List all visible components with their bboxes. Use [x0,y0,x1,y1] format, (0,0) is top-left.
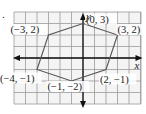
point-label: (3, 2) [118,24,141,36]
point-label: (−4, −1) [0,73,35,85]
point-label: (−1, −2) [48,81,83,93]
point-label: (2, −1) [100,74,129,86]
y-axis-label: y [85,10,91,22]
point-label: (−3, 2) [11,24,40,36]
coordinate-plane: (0, 3)(3, 2)(2, −1)(−1, −2)(−4, −1)(−3, … [0,0,146,114]
x-axis-label: x [134,59,140,71]
y-axis-arrow-down-icon [80,101,86,108]
